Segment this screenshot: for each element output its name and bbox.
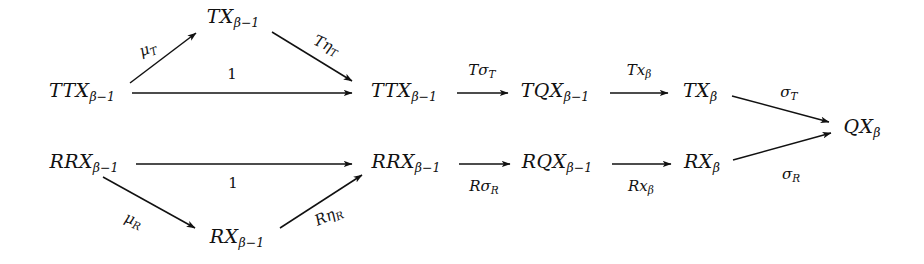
arrow-label: TσT	[468, 63, 495, 80]
node-object-label: TX	[207, 5, 234, 27]
diagram-arrow	[272, 32, 352, 81]
node-object-label: RX	[684, 150, 713, 172]
node-object-label: TTX	[49, 79, 89, 101]
diagram-arrow	[733, 133, 831, 160]
node-object-label: RQX	[522, 150, 567, 172]
diagram-node: RRXβ−1	[50, 152, 119, 175]
diagram-node: TTXβ−1	[49, 81, 115, 104]
diagram-node: RXβ	[684, 152, 720, 175]
arrow-label-text: σ	[780, 83, 790, 101]
node-object-label: TQX	[521, 79, 564, 101]
arrow-label-text: 1	[228, 174, 238, 192]
node-object-label: RRX	[372, 150, 415, 172]
arrow-label: 1	[227, 67, 237, 82]
node-subscript: β−1	[564, 89, 590, 104]
arrow-label-subscript: R	[792, 172, 800, 184]
node-object-label: QX	[843, 115, 873, 137]
node-subscript: β	[713, 160, 720, 175]
arrow-label: 1	[228, 176, 238, 191]
diagram-node: TQXβ−1	[521, 81, 590, 104]
node-subscript: β−1	[238, 235, 264, 250]
arrow-label: σR	[782, 167, 800, 184]
node-subscript: β	[873, 125, 880, 140]
arrow-label-text: Tσ	[468, 61, 488, 79]
arrow-label: Rxβ	[628, 179, 654, 196]
node-subscript: β−1	[415, 160, 441, 175]
node-subscript: β−1	[234, 15, 260, 30]
diagram-node: QXβ	[843, 117, 880, 140]
node-object-label: TX	[683, 79, 710, 101]
diagram-arrow	[103, 177, 195, 228]
node-object-label: RX	[210, 225, 239, 247]
diagram-node: RRXβ−1	[372, 152, 441, 175]
commutative-diagram: TTXβ−1TXβ−1TTXβ−1TQXβ−1TXβQXβRRXβ−1RRXβ−…	[0, 0, 924, 264]
node-subscript: β−1	[566, 160, 592, 175]
diagram-node: TXβ	[683, 81, 717, 104]
diagram-node: RQXβ−1	[522, 152, 592, 175]
node-subscript: β−1	[411, 89, 437, 104]
arrow-label-subscript: β	[648, 184, 654, 196]
diagram-arrow	[130, 33, 196, 83]
node-subscript: β−1	[93, 160, 119, 175]
node-object-label: TTX	[371, 79, 411, 101]
arrow-label-subscript: β	[645, 68, 651, 80]
arrow-label: RσR	[469, 179, 498, 196]
arrow-label-text: 1	[227, 65, 237, 83]
arrow-label: σT	[780, 85, 797, 102]
diagram-node: RXβ−1	[210, 227, 264, 250]
arrow-label-text: σ	[782, 165, 792, 183]
node-subscript: β−1	[89, 89, 115, 104]
node-subscript: β	[710, 89, 717, 104]
diagram-node: TTXβ−1	[371, 81, 437, 104]
arrow-label-subscript: R	[491, 184, 499, 196]
arrow-label-text: Rσ	[469, 177, 491, 195]
arrow-label-text: Tx	[627, 61, 645, 79]
node-object-label: RRX	[50, 150, 93, 172]
arrow-label-text: Rx	[628, 177, 648, 195]
diagram-node: TXβ−1	[207, 7, 260, 30]
arrow-label-subscript: T	[489, 68, 496, 80]
arrow-label-subscript: T	[791, 90, 798, 102]
arrow-label: Txβ	[627, 63, 652, 80]
